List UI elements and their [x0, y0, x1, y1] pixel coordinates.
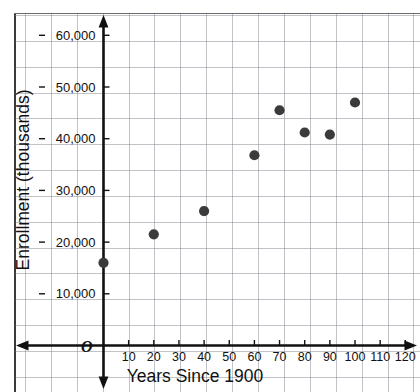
y-tick-label: 20,000: [56, 235, 96, 250]
y-tick-label: 60,000: [56, 28, 96, 43]
x-tick-label: 120: [395, 350, 416, 364]
x-tick-label: 40: [197, 350, 211, 364]
y-tick-label: 10,000: [56, 286, 96, 301]
x-tick-label: 60: [247, 350, 261, 364]
x-tick-label: 90: [323, 350, 337, 364]
y-tick-label: 30,000: [56, 183, 96, 198]
scatter-plot-figure: 102030405060708090100110120 10,00020,000…: [0, 0, 420, 392]
data-point: [199, 206, 209, 216]
x-axis-arrow-left: [16, 341, 29, 351]
y-tick-label: 50,000: [56, 80, 96, 95]
x-tick-label: 110: [370, 350, 390, 364]
data-point: [350, 97, 360, 107]
y-axis-arrow-up: [99, 15, 109, 28]
y-axis-ticks: 10,00020,00030,00040,00050,00060,000: [39, 28, 110, 302]
plot-area: 102030405060708090100110120 10,00020,000…: [0, 0, 420, 392]
x-tick-label: 30: [172, 350, 186, 364]
data-point: [300, 127, 310, 137]
y-tick-label: 40,000: [56, 131, 96, 146]
x-tick-label: 80: [298, 350, 312, 364]
x-axis-title: Years Since 1900: [127, 366, 264, 387]
data-point: [325, 129, 335, 139]
x-tick-label: 100: [345, 350, 366, 364]
x-tick-label: 50: [222, 350, 236, 364]
x-axis-ticks: 102030405060708090100110120: [122, 340, 416, 364]
x-tick-label: 70: [273, 350, 287, 364]
data-point: [249, 150, 259, 160]
y-axis: [99, 15, 109, 389]
x-tick-label: 20: [147, 350, 161, 364]
y-axis-title: Enrollment (thousands): [13, 90, 34, 271]
origin-label: O: [81, 338, 93, 355]
x-tick-label: 10: [122, 350, 136, 364]
data-point: [149, 229, 159, 239]
data-points: [98, 97, 360, 267]
y-axis-title-wrap: Enrollment (thousands): [13, 90, 34, 271]
data-point: [274, 105, 284, 115]
y-axis-arrow-down: [99, 377, 109, 390]
x-axis-title-wrap: Years Since 1900: [127, 366, 264, 387]
data-point: [98, 258, 108, 268]
